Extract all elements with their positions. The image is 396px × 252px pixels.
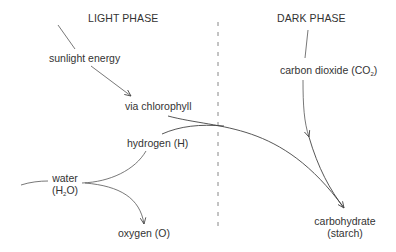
edge-input-sunlight (58, 25, 75, 49)
edge-input-water (21, 181, 48, 185)
edge-hydrogen-merge (162, 125, 224, 134)
edge-water-hydrogen (82, 151, 146, 183)
node-sunlight-energy: sunlight energy (49, 52, 120, 64)
light-phase-header: LIGHT PHASE (88, 12, 158, 24)
carbohydrate-label: carbohydrate (313, 215, 377, 227)
edge-water-oxygen (85, 183, 144, 224)
node-hydrogen: hydrogen (H) (127, 137, 188, 149)
edge-co2-carbohydrate (309, 137, 344, 208)
starch-label: (starch) (313, 227, 377, 239)
edge-sunlight-chlorophyll (91, 66, 131, 96)
node-carbohydrate: carbohydrate (starch) (313, 215, 377, 239)
edge-co2-down (303, 80, 309, 137)
node-carbon-dioxide: carbon dioxide (CO2) (280, 64, 377, 76)
dark-phase-header: DARK PHASE (277, 12, 346, 24)
edge-header-co2 (305, 30, 308, 58)
water-label: water (50, 172, 80, 184)
node-oxygen: oxygen (O) (118, 227, 170, 239)
node-water: water (H2O) (50, 172, 80, 196)
node-via-chlorophyll: via chlorophyll (125, 100, 192, 112)
water-formula: (H2O) (50, 184, 80, 196)
